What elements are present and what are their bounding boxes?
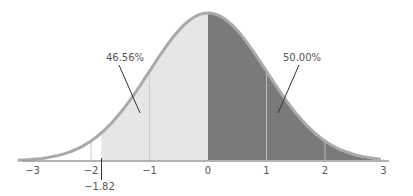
left-annotation-label: 46.56% <box>106 52 144 63</box>
x-axis-tick-labels: −3−2−10123 <box>25 165 387 176</box>
marker-label: −1.82 <box>84 181 115 192</box>
x-tick-label: 0 <box>205 165 211 176</box>
x-tick-label: 1 <box>263 165 269 176</box>
x-tick-label: −3 <box>25 165 40 176</box>
x-tick-label: −1 <box>142 165 157 176</box>
x-tick-label: −2 <box>84 165 99 176</box>
x-tick-label: 3 <box>380 165 386 176</box>
normal-distribution-chart: −3−2−10123 −1.82 46.56% 50.00% <box>0 0 413 196</box>
left-shaded-area <box>102 13 209 160</box>
x-tick-label: 2 <box>322 165 328 176</box>
right-shaded-area <box>208 13 381 160</box>
right-annotation-label: 50.00% <box>283 52 321 63</box>
